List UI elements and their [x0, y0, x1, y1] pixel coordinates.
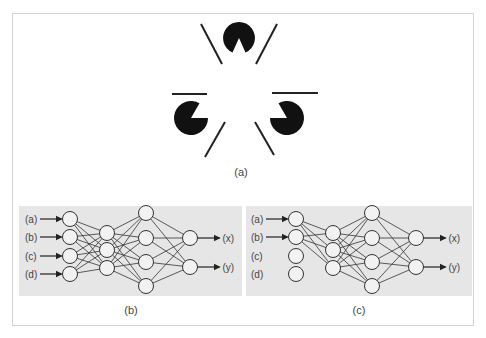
neuron-node	[365, 279, 380, 294]
neuron-node	[365, 206, 380, 221]
input-label: (a)	[25, 214, 37, 225]
neuron-node	[63, 249, 78, 264]
input-label: (b)	[251, 232, 263, 243]
input-label: (b)	[25, 232, 37, 243]
caption-c: (c)	[353, 304, 366, 316]
output-label: (x)	[449, 233, 461, 244]
input-label: (d)	[25, 269, 37, 280]
neuron-node	[100, 243, 115, 258]
input-label: (c)	[251, 251, 263, 262]
caption-b: (b)	[124, 304, 137, 316]
neuron-node	[326, 226, 341, 241]
neuron-node	[326, 243, 341, 258]
neuron-node	[139, 206, 154, 221]
pacman-top-icon	[223, 22, 255, 53]
neuron-node	[100, 226, 115, 241]
output-label: (y)	[449, 262, 461, 273]
output-label: (x)	[223, 233, 235, 244]
neuron-node	[139, 231, 154, 246]
neuron-node	[409, 231, 424, 246]
neuron-node	[183, 231, 198, 246]
neuron-node	[289, 212, 304, 227]
neuron-node	[289, 230, 304, 245]
neuron-node	[289, 267, 304, 282]
pacman-left-icon	[174, 101, 208, 135]
pacman-right-icon	[270, 101, 304, 135]
kanizsa-triangle	[172, 22, 318, 157]
input-label: (a)	[251, 214, 263, 225]
caption-a: (a)	[234, 166, 247, 178]
neuron-node	[63, 230, 78, 245]
neuron-node	[100, 261, 115, 276]
input-label: (d)	[251, 269, 263, 280]
neuron-node	[326, 261, 341, 276]
output-label: (y)	[223, 262, 235, 273]
input-label: (c)	[25, 251, 37, 262]
neuron-node	[289, 249, 304, 264]
neuron-node	[409, 260, 424, 275]
neuron-node	[139, 255, 154, 270]
neuron-node	[183, 260, 198, 275]
neuron-node	[139, 279, 154, 294]
neuron-node	[365, 255, 380, 270]
neuron-node	[365, 231, 380, 246]
neuron-node	[63, 212, 78, 227]
neuron-node	[63, 267, 78, 282]
